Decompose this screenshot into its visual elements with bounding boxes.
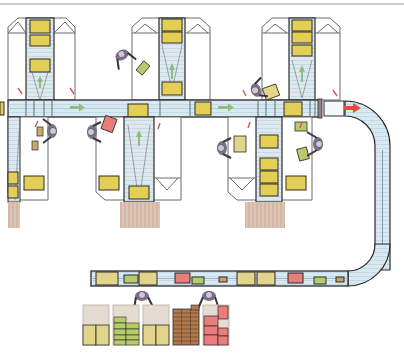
carton-tan — [37, 127, 43, 136]
pallet-yellow-2 — [143, 305, 169, 345]
pallet-green — [113, 305, 139, 345]
tote-brown — [336, 277, 344, 282]
pallet-brown — [173, 305, 199, 345]
tote — [286, 176, 306, 190]
tote-yellow — [96, 272, 118, 285]
tote — [260, 184, 278, 196]
station-2-top-rack — [132, 18, 210, 100]
pallet — [245, 202, 285, 228]
pick-light-icon — [243, 90, 246, 96]
tote — [292, 20, 312, 31]
tote-yellow — [139, 272, 157, 285]
tote-green — [192, 277, 204, 284]
tote — [30, 20, 50, 33]
carton-yellow — [234, 136, 246, 152]
tote — [128, 104, 148, 117]
tote — [292, 32, 312, 43]
packing-conveyor — [91, 243, 390, 286]
tote-yellow — [257, 272, 275, 285]
tote-green — [124, 275, 138, 283]
tote — [129, 186, 149, 199]
tote — [0, 102, 4, 115]
tote — [30, 59, 50, 72]
tote — [195, 102, 211, 115]
tote — [24, 176, 44, 190]
end-stop — [318, 99, 322, 118]
tote — [260, 171, 278, 183]
tote — [284, 102, 302, 116]
carton-tan — [32, 141, 38, 150]
main-conveyor — [0, 99, 322, 118]
tote-yellow — [237, 272, 255, 285]
pallet — [120, 202, 160, 228]
tote — [162, 82, 182, 95]
tote — [162, 32, 182, 43]
tote — [8, 186, 18, 198]
tote-brown — [219, 277, 227, 282]
tote — [8, 172, 18, 184]
tote — [292, 45, 312, 56]
station-1-top-rack — [8, 18, 75, 100]
pallet-pink — [203, 305, 229, 345]
pallet — [8, 202, 20, 228]
tote — [162, 19, 182, 31]
tote — [99, 176, 119, 190]
tote-pink — [288, 273, 303, 283]
pallet-yellow-1 — [83, 305, 109, 345]
tote-green — [314, 277, 326, 284]
packing-pallets — [83, 305, 229, 345]
station-2-bottom-rack — [96, 117, 181, 228]
tote — [30, 35, 50, 46]
station-3-bottom-rack — [228, 117, 312, 228]
tote — [260, 135, 278, 148]
tote-pink — [175, 273, 190, 283]
tote — [260, 158, 278, 170]
warehouse-diagram — [0, 0, 404, 359]
